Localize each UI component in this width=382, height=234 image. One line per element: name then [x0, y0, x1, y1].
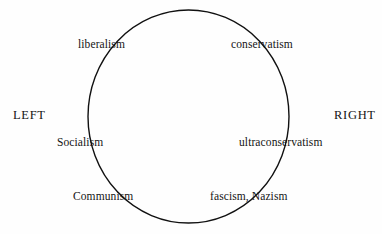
- political-spectrum-diagram: liberalism conservatism LEFT RIGHT Socia…: [0, 0, 382, 234]
- label-fascism-nazism: fascism, Nazism: [210, 191, 288, 203]
- label-communism: Communism: [73, 191, 133, 203]
- label-socialism: Socialism: [57, 137, 103, 149]
- label-left-pole: LEFT: [13, 109, 46, 122]
- label-liberalism: liberalism: [78, 39, 125, 51]
- label-conservatism: conservatism: [231, 39, 293, 51]
- spectrum-circle-graphic: [0, 0, 382, 234]
- label-right-pole: RIGHT: [334, 109, 376, 122]
- label-ultraconservatism: ultraconservatism: [239, 137, 322, 149]
